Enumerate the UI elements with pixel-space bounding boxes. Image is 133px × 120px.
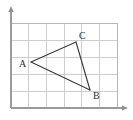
vertex-label-b: B [93, 90, 100, 101]
edge-a-c [31, 42, 76, 62]
y-axis-arrow-icon [8, 6, 13, 12]
figure-canvas: A C B [0, 0, 133, 120]
vertex-label-c: C [79, 30, 86, 41]
triangle-abc [31, 42, 90, 90]
geometry-figure: A C B [0, 0, 133, 120]
x-axis-arrow-icon [122, 105, 128, 110]
edge-c-b [76, 42, 90, 90]
grid-vertical-lines [11, 23, 117, 108]
edge-b-a [31, 62, 90, 90]
axes [8, 6, 128, 111]
vertex-labels: A C B [19, 30, 100, 101]
vertex-label-a: A [19, 58, 27, 69]
